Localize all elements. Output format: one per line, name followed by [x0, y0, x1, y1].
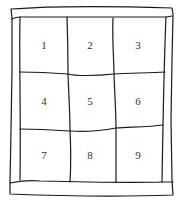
- grid-right-edge: [162, 17, 166, 182]
- cell-label-4: 4: [41, 96, 47, 107]
- grid-row-line-1: [20, 72, 165, 76]
- grid-column-line-2: [113, 18, 116, 182]
- grid-column-line-1: [67, 17, 71, 182]
- cell-label-1: 1: [41, 40, 47, 51]
- bottom-band-line: [10, 181, 173, 183]
- cell-label-6: 6: [135, 96, 141, 107]
- cell-label-7: 7: [41, 150, 47, 161]
- cell-label-8: 8: [87, 150, 93, 161]
- cell-label-3: 3: [135, 40, 141, 51]
- cell-label-9: 9: [135, 150, 141, 161]
- top-band-line: [12, 16, 172, 19]
- cell-label-2: 2: [87, 40, 93, 51]
- grid-left-edge: [20, 17, 21, 180]
- cell-label-5: 5: [87, 96, 93, 107]
- grid-row-line-2: [20, 125, 163, 131]
